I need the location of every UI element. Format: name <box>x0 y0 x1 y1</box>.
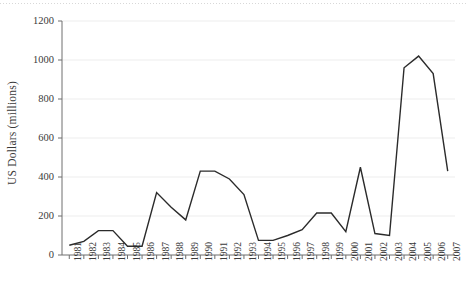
y-tick-label: 1000 <box>20 54 54 65</box>
x-tick-label: 2007 <box>452 242 462 261</box>
x-tick-label: 2004 <box>408 242 418 261</box>
data-series-line <box>69 56 447 246</box>
x-tick-label: 2000 <box>350 242 360 261</box>
x-tick-label: 1992 <box>233 242 243 261</box>
x-tick-label: 2006 <box>437 242 447 261</box>
chart-figure: US Dollars (millions) 020040060080010001… <box>0 0 466 304</box>
y-tick-label: 400 <box>20 171 54 182</box>
y-tick-label: 600 <box>20 132 54 143</box>
x-tick-label: 1983 <box>102 242 112 261</box>
x-tick-label: 2001 <box>364 242 374 261</box>
y-tick-label: 200 <box>20 210 54 221</box>
x-tick-label: 1997 <box>306 242 316 261</box>
gridlines <box>62 21 455 216</box>
y-tick-label: 800 <box>20 93 54 104</box>
x-tick-label: 2002 <box>379 242 389 261</box>
y-axis-ticks <box>58 21 62 255</box>
x-tick-label: 1996 <box>292 242 302 261</box>
x-tick-label: 2003 <box>394 242 404 261</box>
x-tick-label: 1993 <box>248 242 258 261</box>
x-tick-label: 1981 <box>73 242 83 261</box>
x-tick-label: 1984 <box>117 242 127 261</box>
x-tick-label: 1998 <box>321 242 331 261</box>
x-tick-label: 1988 <box>175 242 185 261</box>
x-tick-label: 1995 <box>277 242 287 261</box>
x-tick-label: 1985 <box>132 242 142 261</box>
x-tick-label: 1986 <box>146 242 156 261</box>
y-tick-label: 0 <box>20 249 54 260</box>
x-tick-label: 1982 <box>88 242 98 261</box>
x-tick-label: 1994 <box>263 242 273 261</box>
x-tick-label: 1989 <box>190 242 200 261</box>
y-tick-label: 1200 <box>20 15 54 26</box>
x-tick-label: 1987 <box>161 242 171 261</box>
x-tick-label: 2005 <box>423 242 433 261</box>
x-tick-label: 1991 <box>219 242 229 261</box>
x-tick-label: 1999 <box>335 242 345 261</box>
x-tick-label: 1990 <box>204 242 214 261</box>
